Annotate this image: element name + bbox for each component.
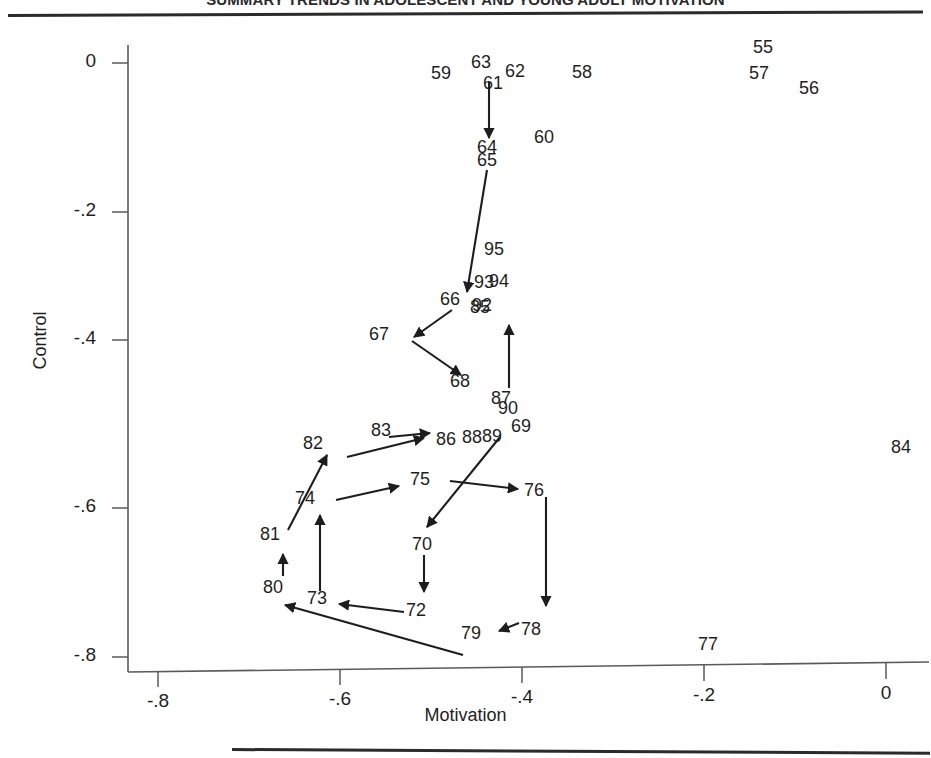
data-point-69: 69	[511, 417, 531, 435]
arrow-72-to-73	[339, 604, 404, 612]
data-point-61: 61	[483, 74, 503, 92]
data-point-58: 58	[572, 63, 592, 81]
data-point-76: 76	[524, 481, 544, 499]
data-point-82: 82	[303, 434, 323, 452]
data-point-74: 74	[295, 489, 315, 507]
data-point-63: 63	[471, 53, 491, 71]
data-point-92: 92	[472, 296, 492, 314]
y-tick-label-4: -.8	[36, 644, 96, 666]
data-point-89: 89	[482, 427, 502, 445]
data-point-65: 65	[477, 151, 497, 169]
data-point-77: 77	[698, 635, 718, 653]
arrow-67-to-68	[412, 341, 461, 375]
chart-page: SUMMARY TRENDS IN ADOLESCENT AND YOUNG A…	[0, 0, 931, 758]
y-tick-label-0: 0	[36, 50, 96, 72]
data-point-78: 78	[521, 620, 541, 638]
data-point-94: 94	[489, 272, 509, 290]
data-point-72: 72	[406, 601, 426, 619]
data-point-83: 83	[371, 421, 391, 439]
x-axis-title: Motivation	[0, 705, 931, 726]
y-tick-label-3: -.6	[36, 495, 96, 517]
x-tick-label-3: -.2	[674, 684, 734, 706]
arrow-74-to-75	[336, 486, 399, 500]
data-point-81: 81	[260, 525, 280, 543]
arrow-69-to-70	[427, 437, 500, 527]
data-point-68: 68	[450, 372, 470, 390]
arrow-83-to-68	[389, 433, 430, 437]
data-point-90: 90	[498, 399, 518, 417]
data-point-80: 80	[263, 578, 283, 596]
data-point-84: 84	[891, 438, 911, 456]
arrow-82-to-83	[347, 438, 424, 457]
y-axis-title: Control	[30, 296, 51, 386]
data-point-57: 57	[749, 64, 769, 82]
y-tick-label-1: -.2	[36, 199, 96, 221]
arrow-66-to-67	[414, 310, 452, 337]
data-point-75: 75	[410, 470, 430, 488]
trajectory-arrows	[283, 82, 546, 655]
data-point-62: 62	[505, 62, 525, 80]
data-point-56: 56	[799, 79, 819, 97]
data-point-66: 66	[440, 290, 460, 308]
arrow-78-to-79	[499, 623, 519, 631]
data-point-59: 59	[431, 64, 451, 82]
data-point-73: 73	[307, 589, 327, 607]
data-point-55: 55	[753, 38, 773, 56]
data-point-86: 86	[436, 430, 456, 448]
data-point-60: 60	[534, 128, 554, 146]
data-point-95: 95	[484, 240, 504, 258]
data-point-79: 79	[461, 624, 481, 642]
data-point-67: 67	[369, 325, 389, 343]
data-point-70: 70	[412, 535, 432, 553]
data-point-88: 88	[462, 428, 482, 446]
axis-spines	[128, 45, 929, 672]
y-axis-ticks	[112, 63, 128, 657]
arrow-79-to-80	[285, 605, 463, 655]
x-tick-label-4: 0	[856, 682, 916, 704]
